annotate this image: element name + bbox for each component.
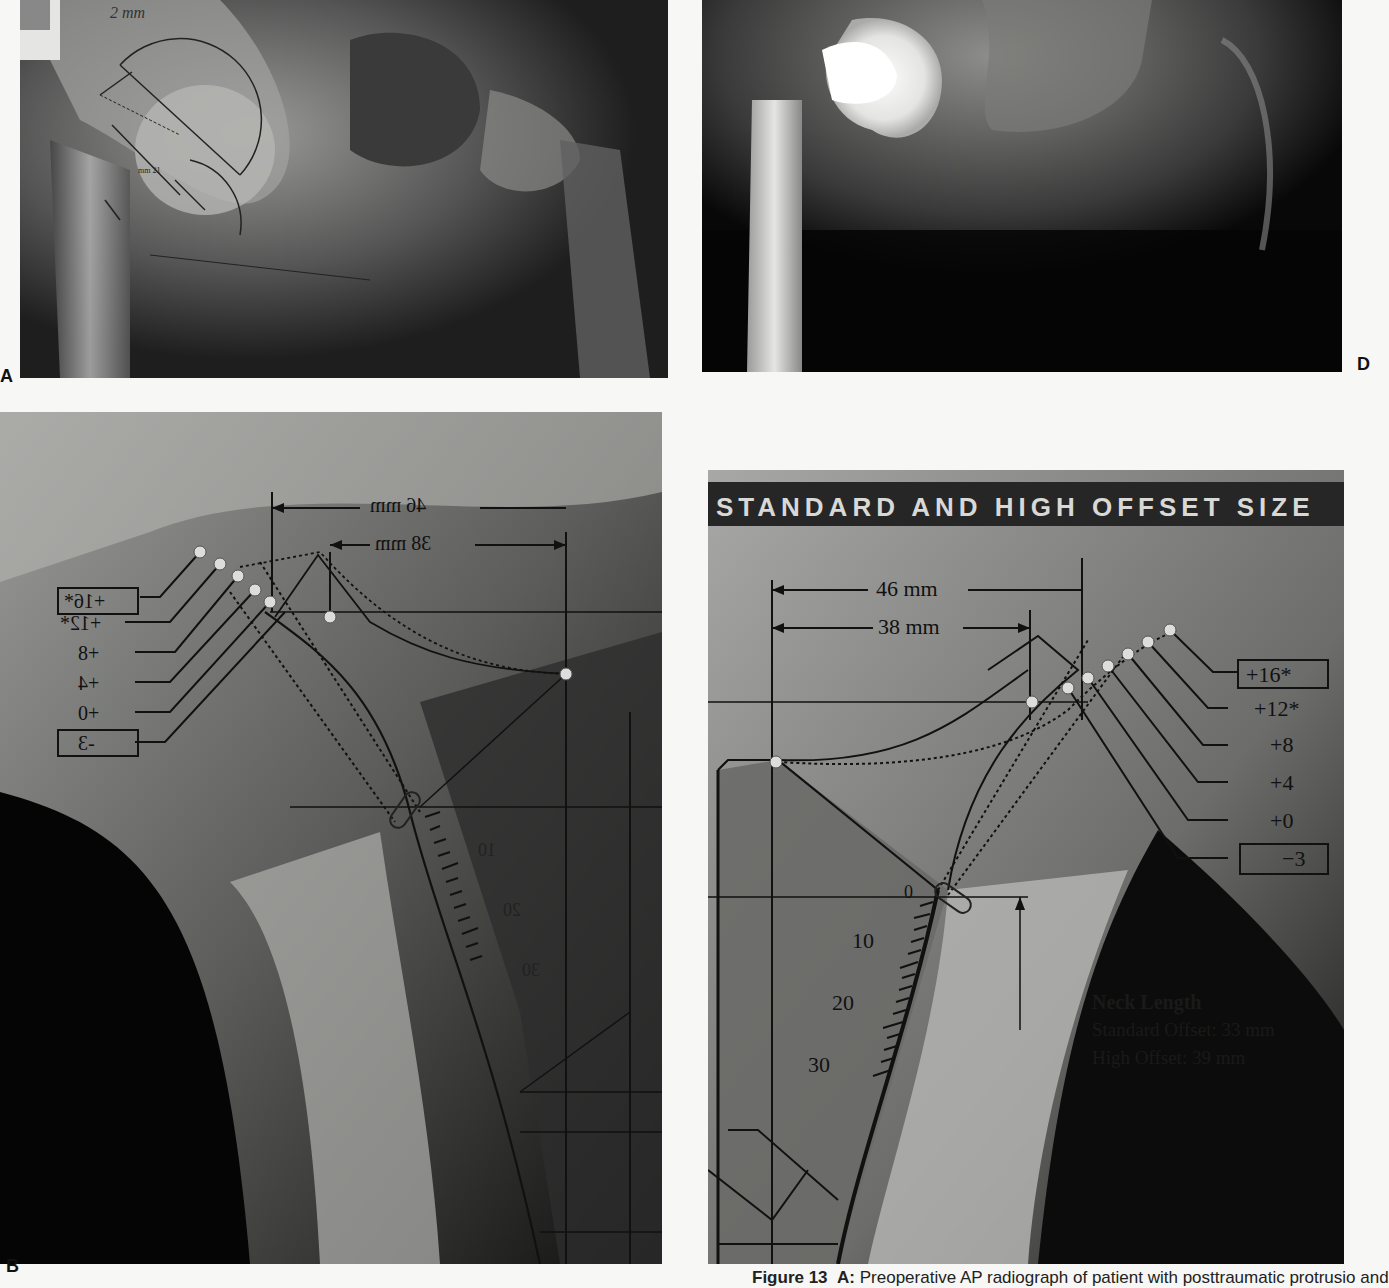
offset-label-plus4: +4 (1270, 770, 1293, 796)
scale-label-10: 10 (852, 928, 874, 954)
panel-letter-b: B (6, 1256, 19, 1277)
neck-length-title: Neck Length (1092, 988, 1275, 1016)
panel-a-radiograph: 2 mm mm 21 (20, 0, 668, 378)
scale-label-30: 30 (808, 1052, 830, 1078)
offset-label-plus12: +12* (60, 612, 101, 635)
offset-label-plus12: +12* (1254, 696, 1299, 722)
offset-label-minus3: −3 (1282, 846, 1305, 872)
scale-label-10: 10 (478, 840, 496, 861)
offset-label-minus3: -3 (78, 732, 95, 755)
figure-caption: Figure 13 A: Preoperative AP radiograph … (752, 1268, 1389, 1288)
caption-figure-label: Figure 13 (752, 1268, 828, 1287)
scale-label-20: 20 (503, 900, 521, 921)
scale-label-0: 0 (904, 882, 913, 903)
dimension-label-38mm: 38 mm (375, 532, 431, 555)
dimension-label-46mm: 46 mm (876, 576, 938, 602)
offset-label-plus16: +16* (64, 590, 105, 613)
template-c-drawing (708, 470, 1344, 1264)
neck-length-standard: Standard Offset: 33 mm (1092, 1016, 1275, 1044)
dimension-label-46mm: 46 mm (370, 494, 426, 517)
neck-length-info: Neck Length Standard Offset: 33 mm High … (1092, 988, 1275, 1072)
panel-letter-d: D (1357, 354, 1370, 375)
offset-label-plus16: +16* (1246, 662, 1291, 688)
handwritten-note: 2 mm (110, 4, 145, 22)
radiograph-a-image (20, 0, 668, 378)
caption-text: Preoperative AP radiograph of patient wi… (860, 1268, 1389, 1287)
panel-b-template-overlay: 46 mm 38 mm +16* +12* +8 +4 +0 -3 10 20 … (0, 412, 662, 1264)
radiograph-d-image (702, 0, 1342, 372)
template-banner: STANDARD AND HIGH OFFSET SIZE (716, 492, 1315, 523)
offset-label-plus8: +8 (78, 642, 99, 665)
panel-letter-a: A (0, 366, 13, 387)
measurement-label: mm 21 (138, 166, 160, 175)
offset-label-plus0: +0 (1270, 808, 1293, 834)
offset-label-plus4: +4 (78, 672, 99, 695)
caption-part-label: A: (837, 1268, 855, 1287)
offset-label-plus0: +0 (78, 702, 99, 725)
offset-label-plus8: +8 (1270, 732, 1293, 758)
panel-c-template-overlay: STANDARD AND HIGH OFFSET SIZE 46 mm 38 m… (708, 470, 1344, 1264)
scale-label-30: 30 (522, 960, 540, 981)
panel-d-radiograph (702, 0, 1342, 372)
scale-label-20: 20 (832, 990, 854, 1016)
template-b-drawing (0, 412, 662, 1264)
dimension-label-38mm: 38 mm (878, 614, 940, 640)
neck-length-high: High Offset: 39 mm (1092, 1044, 1275, 1072)
